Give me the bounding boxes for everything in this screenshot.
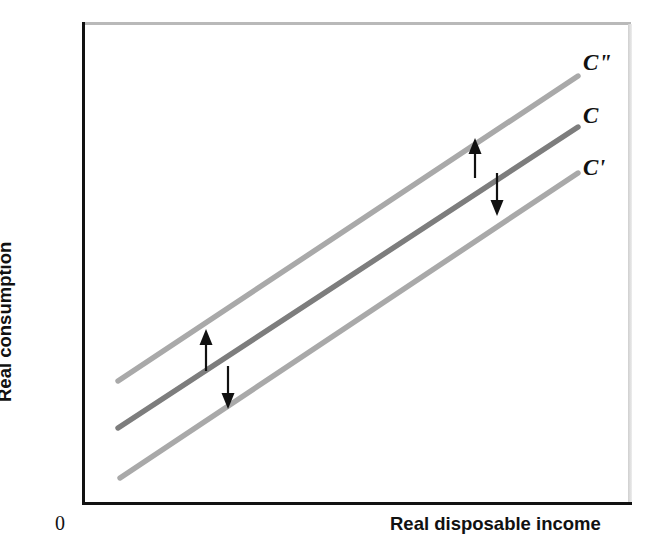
line-c-prime <box>120 173 578 478</box>
y-axis-title: Real consumption <box>0 242 16 402</box>
x-axis-title: Real disposable income <box>390 513 601 535</box>
curve-label-c: C <box>583 103 599 129</box>
y-axis-title-container: Real consumption <box>16 170 42 402</box>
curve-label-c-double-prime: C" <box>583 50 612 76</box>
line-c-double-prime <box>118 76 578 381</box>
line-c-base <box>118 127 578 428</box>
curve-label-c-prime: C' <box>583 155 606 181</box>
origin-label: 0 <box>55 512 65 535</box>
chart-lines-layer <box>0 0 653 555</box>
consumption-function-figure: C" C C' Real disposable income Real cons… <box>0 0 653 555</box>
